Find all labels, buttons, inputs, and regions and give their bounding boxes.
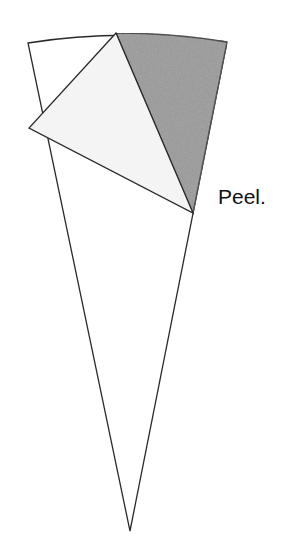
cone-peel-diagram (0, 0, 289, 547)
caption-peel: Peel. (218, 186, 266, 207)
